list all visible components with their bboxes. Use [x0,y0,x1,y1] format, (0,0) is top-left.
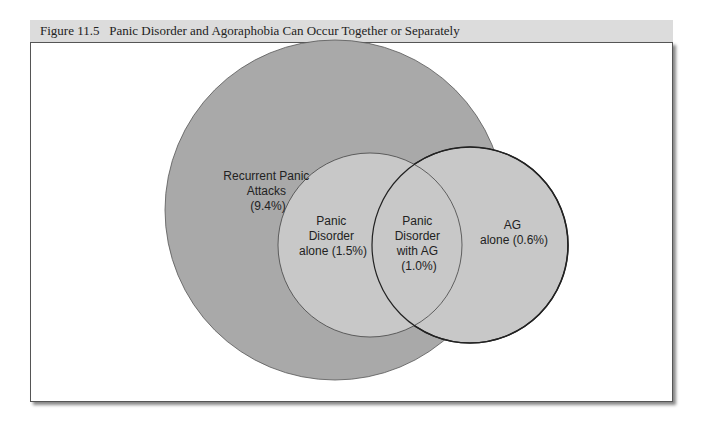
venn-diagram: Recurrent Panic Attacks (9.4%) Panic Dis… [0,0,712,423]
